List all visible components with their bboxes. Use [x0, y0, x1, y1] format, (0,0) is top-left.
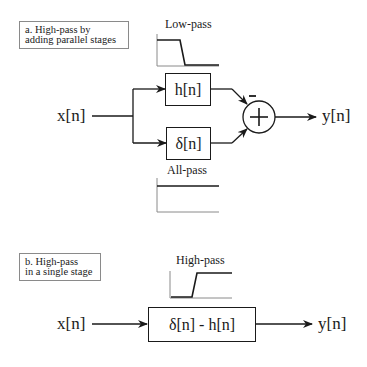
delta-block: δ[n] — [166, 127, 211, 160]
low-pass-label: Low-pass — [165, 17, 212, 32]
low-pass-response-plot — [157, 34, 219, 66]
combined-block: δ[n] - h[n] — [148, 307, 256, 342]
summer-node — [243, 101, 275, 133]
high-pass-response-plot — [170, 271, 232, 298]
combined-block-label: δ[n] - h[n] — [169, 316, 235, 334]
delta-block-label: δ[n] — [175, 135, 201, 153]
caption-b: b. High-pass in a single stage — [19, 253, 101, 281]
input-label-a: x[n] — [57, 106, 85, 126]
bottom-branch-wire — [210, 129, 247, 143]
output-label-a: y[n] — [322, 106, 350, 126]
all-pass-response-plot — [157, 178, 219, 212]
caption-b-line2: in a single stage — [25, 267, 96, 277]
top-branch-wire — [210, 89, 247, 104]
all-pass-label: All-pass — [167, 163, 207, 178]
caption-a-line2: adding parallel stages — [25, 35, 124, 45]
input-wire-a — [92, 89, 166, 143]
caption-a: a. High-pass by adding parallel stages — [19, 21, 129, 49]
h-block-label: h[n] — [175, 81, 202, 99]
h-block: h[n] — [165, 73, 211, 106]
output-label-b: y[n] — [318, 314, 346, 334]
high-pass-label: High-pass — [176, 253, 225, 268]
input-label-b: x[n] — [57, 314, 85, 334]
